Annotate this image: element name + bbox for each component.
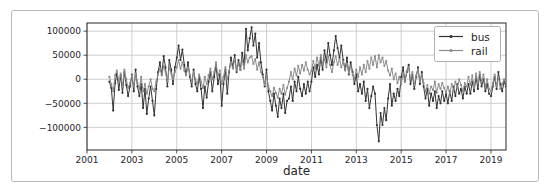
y-tick-label: 0 xyxy=(75,74,81,84)
y-tick-label: 50000 xyxy=(52,50,81,60)
x-tick-label: 2017 xyxy=(435,155,458,165)
figure: 2001200320052007200920112013201520172019… xyxy=(0,0,546,194)
x-tick-label: 2001 xyxy=(76,155,99,165)
y-tick-label: 100000 xyxy=(47,26,82,36)
legend-label-bus: bus xyxy=(471,31,490,43)
time-series-chart: 2001200320052007200920112013201520172019… xyxy=(0,0,546,194)
bus-marker-icon xyxy=(449,35,452,38)
x-tick-label: 2009 xyxy=(255,155,278,165)
legend-box xyxy=(435,27,501,62)
x-tick-label: 2013 xyxy=(345,155,368,165)
y-tick-label: −100000 xyxy=(39,123,81,133)
x-axis-label: date xyxy=(283,164,310,178)
x-tick-label: 2003 xyxy=(120,155,143,165)
x-tick-label: 2007 xyxy=(210,155,233,165)
x-tick-label: 2019 xyxy=(480,155,503,165)
legend: bus rail xyxy=(435,27,501,62)
x-tick-label: 2005 xyxy=(165,155,188,165)
legend-label-rail: rail xyxy=(471,45,488,57)
x-tick-label: 2015 xyxy=(390,155,413,165)
rail-marker-icon xyxy=(449,49,452,52)
y-tick-label: −50000 xyxy=(45,99,81,109)
